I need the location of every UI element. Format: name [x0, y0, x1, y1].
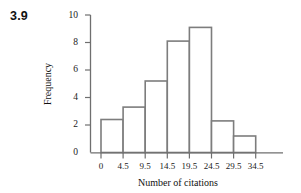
x-tick-label: 4.5: [117, 161, 129, 171]
bar: [234, 136, 256, 153]
bar: [145, 81, 167, 153]
x-tick-label: 14.5: [159, 161, 175, 171]
x-tick-label: 24.5: [204, 161, 220, 171]
y-tick-label: 10: [69, 10, 79, 20]
bar: [189, 27, 211, 152]
x-tick-label: 19.5: [182, 161, 198, 171]
bar: [167, 41, 189, 152]
y-tick-label: 6: [73, 64, 78, 74]
y-tick-label: 8: [73, 37, 78, 47]
bar: [212, 121, 234, 153]
histogram-figure: 3.9 10 8 6 4 2 0 Frequenc: [0, 0, 301, 193]
x-axis-tick-marks: [101, 153, 256, 159]
y-axis-tick-marks: [85, 15, 91, 125]
y-tick-label: 2: [73, 119, 78, 129]
x-axis-title: Number of citations: [138, 177, 218, 188]
bar: [123, 107, 145, 152]
y-axis-title: Frequency: [42, 63, 53, 105]
y-tick-label: 4: [73, 92, 78, 102]
y-tick-label: 0: [73, 147, 78, 157]
x-tick-label: 9.5: [140, 161, 152, 171]
x-tick-label: 29.5: [226, 161, 242, 171]
bar: [101, 120, 123, 153]
x-tick-label: 0: [99, 161, 104, 171]
x-axis-tick-labels: 0 4.5 9.5 14.5 19.5 24.5 29.5 34.5: [99, 161, 264, 171]
histogram-bars: [101, 27, 256, 152]
x-tick-label: 34.5: [248, 161, 264, 171]
plot-area: 10 8 6 4 2 0 Frequency: [0, 0, 301, 193]
y-axis-tick-labels: 10 8 6 4 2 0: [69, 10, 79, 157]
